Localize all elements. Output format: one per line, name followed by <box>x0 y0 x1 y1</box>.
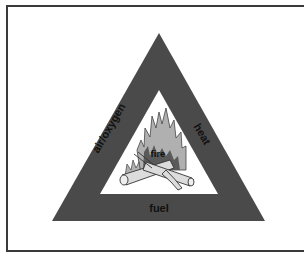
fire-triangle-diagram: air/oxygen heat fuel fire <box>0 0 304 260</box>
label-fuel: fuel <box>149 202 169 214</box>
label-fire: fire <box>151 148 166 159</box>
